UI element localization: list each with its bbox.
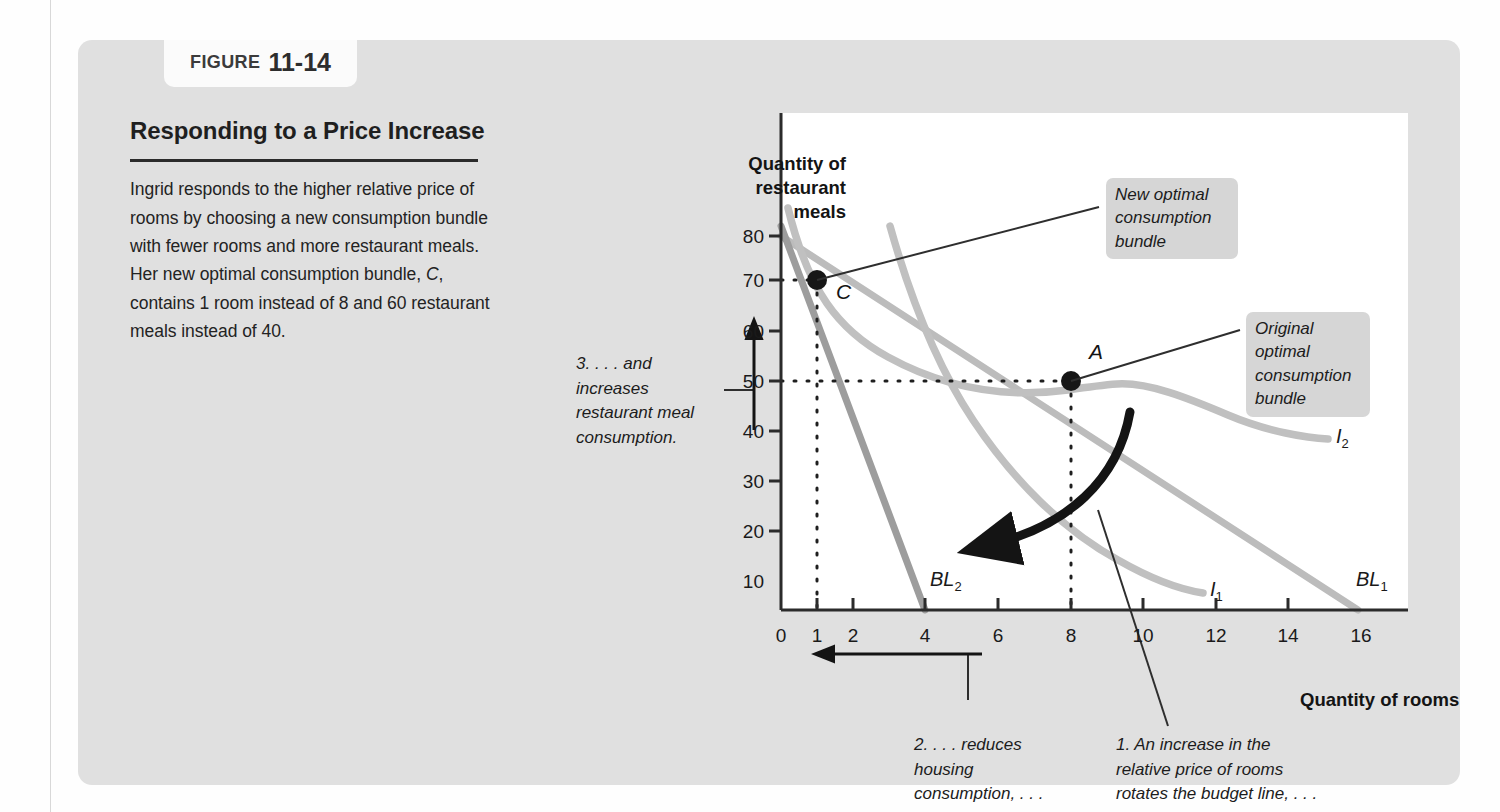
page-margin-rule [50, 0, 51, 812]
note-price-increase: 1. An increase in the relative price of … [1116, 733, 1332, 807]
figure-panel: FIGURE11-14 Responding to a Price Increa… [78, 40, 1460, 785]
chart-area: Quantity of restaurant meals Quantity of… [78, 40, 1460, 785]
y-tick-label-80: 80 [678, 226, 764, 248]
note-reduces-housing: 2. . . . reduces housing consumption, . … [914, 733, 1064, 807]
x-tick-label-2: 2 [833, 625, 873, 647]
callout-original-bundle: Original optimal consumption bundle [1246, 312, 1370, 417]
y-tick-label-70: 70 [678, 270, 764, 292]
point-label-c: C [836, 280, 851, 304]
point-label-a: A [1089, 340, 1103, 364]
x-tick-label-12: 12 [1196, 625, 1236, 647]
y-tick-label-30: 30 [678, 471, 764, 493]
x-tick-label-14: 14 [1268, 625, 1308, 647]
note-increases-meals: 3. . . . and increases restaurant meal c… [576, 352, 722, 451]
y-axis-ticks [769, 236, 781, 531]
y-tick-label-60: 60 [678, 321, 764, 343]
curve-label-bl2: BL2 [930, 568, 962, 594]
x-tick-label-8: 8 [1051, 625, 1091, 647]
callout-new-bundle: New optimal consumption bundle [1106, 178, 1238, 259]
figure-page: FIGURE11-14 Responding to a Price Increa… [0, 0, 1500, 812]
curve-label-bl1: BL1 [1356, 568, 1388, 594]
x-axis-title: Quantity of rooms [1300, 688, 1459, 712]
y-tick-label-20: 20 [678, 521, 764, 543]
curve-label-i2: I2 [1336, 425, 1349, 451]
x-tick-label-0: 0 [761, 625, 801, 647]
x-tick-label-6: 6 [978, 625, 1018, 647]
y-axis-title: Quantity of restaurant meals [696, 152, 846, 224]
x-tick-label-4: 4 [905, 625, 945, 647]
y-tick-label-10: 10 [678, 571, 764, 593]
x-tick-label-16: 16 [1341, 625, 1381, 647]
x-tick-label-1: 1 [797, 625, 837, 647]
curve-label-i1: I1 [1210, 578, 1223, 604]
x-tick-label-10: 10 [1123, 625, 1163, 647]
